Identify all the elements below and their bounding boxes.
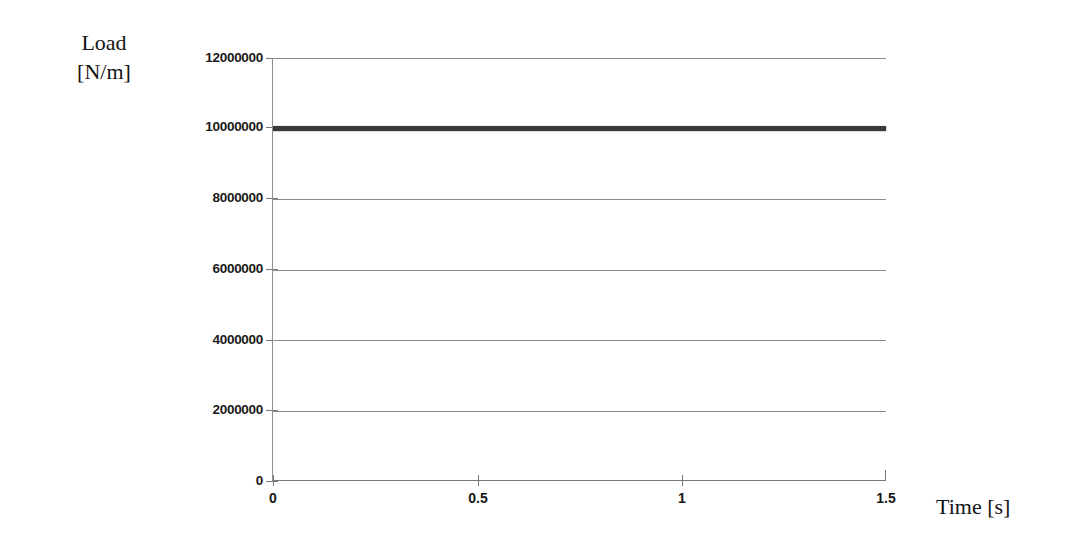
x-axis-end-cap xyxy=(885,470,886,481)
gridline-6000000 xyxy=(273,270,886,271)
x-tick-label-0-5: 0.5 xyxy=(443,490,513,506)
plot-area xyxy=(273,58,886,481)
y-tick-mark-0 xyxy=(266,481,278,482)
x-tick-mark-0 xyxy=(273,475,274,486)
x-tick-mark-1 xyxy=(682,475,683,486)
x-tick-label-0: 0 xyxy=(238,490,308,506)
y-axis-title-line-1: Load xyxy=(52,28,156,57)
y-tick-label-6000000: 6000000 xyxy=(167,261,263,276)
gridline-12000000 xyxy=(273,58,886,59)
x-axis-line xyxy=(273,480,886,481)
gridline-2000000 xyxy=(273,411,886,412)
gridline-8000000 xyxy=(273,199,886,200)
y-tick-label-8000000: 8000000 xyxy=(167,190,263,205)
y-tick-label-2000000: 2000000 xyxy=(167,402,263,417)
chart-figure: Load [N/m] Time [s] 12000000 10000000 80… xyxy=(0,0,1076,555)
x-tick-label-1: 1 xyxy=(647,490,717,506)
y-tick-label-4000000: 4000000 xyxy=(167,332,263,347)
x-tick-mark-0-5 xyxy=(478,475,479,486)
y-axis-title: Load [N/m] xyxy=(52,28,156,86)
x-tick-label-1-5: 1.5 xyxy=(851,490,921,506)
gridline-4000000 xyxy=(273,340,886,341)
x-axis-title: Time [s] xyxy=(936,492,1010,521)
y-axis-title-line-2: [N/m] xyxy=(52,57,156,86)
y-tick-label-10000000: 10000000 xyxy=(167,119,263,134)
y-tick-label-12000000: 12000000 xyxy=(167,50,263,65)
y-tick-label-0: 0 xyxy=(167,473,263,488)
data-series-load-line xyxy=(273,126,886,131)
